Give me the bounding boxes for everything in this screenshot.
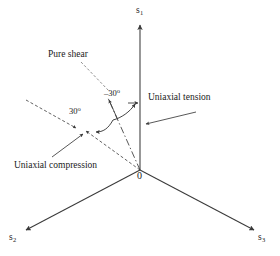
angle-positive-30-label: 30o bbox=[69, 105, 81, 115]
angle-arc-group bbox=[96, 104, 135, 132]
sigma-2-label-sub: 2 bbox=[13, 236, 16, 243]
uniaxial-compression-leader bbox=[52, 134, 83, 157]
origin-label: 0 bbox=[137, 171, 142, 181]
principal-stress-diagram bbox=[0, 0, 280, 256]
angle-negative-30-value: –30 bbox=[104, 88, 117, 98]
sigma-1-axis-label: s1 bbox=[136, 6, 143, 16]
sigma-3-axis-line bbox=[140, 170, 254, 230]
angle-negative-30-label: –30o bbox=[104, 87, 120, 97]
pure-shear-label: Pure shear bbox=[48, 50, 88, 60]
sigma-1-label-sub: 1 bbox=[140, 9, 143, 16]
sigma-3-axis-label: s3 bbox=[258, 233, 265, 243]
uniaxial-tension-leader bbox=[146, 112, 196, 124]
figure-canvas: s1 s2 s3 0 Pure shear Uniaxial tension U… bbox=[0, 0, 280, 256]
uniaxial-tension-label: Uniaxial tension bbox=[148, 93, 211, 103]
sigma-3-label-sub: 3 bbox=[262, 236, 265, 243]
pure-shear-ray-arrow bbox=[109, 100, 117, 118]
angle-positive-30-degree: o bbox=[78, 105, 81, 112]
angle-positive-30-value: 30 bbox=[69, 106, 78, 116]
uniaxial-compression-label: Uniaxial compression bbox=[14, 161, 97, 171]
angle-negative-30-degree: o bbox=[117, 87, 120, 94]
sigma-2-axis-label: s2 bbox=[9, 233, 16, 243]
angle-arc-positive-30 bbox=[96, 120, 113, 132]
sigma-2-axis-line bbox=[26, 170, 140, 230]
pure-shear-ray-group bbox=[108, 98, 140, 170]
